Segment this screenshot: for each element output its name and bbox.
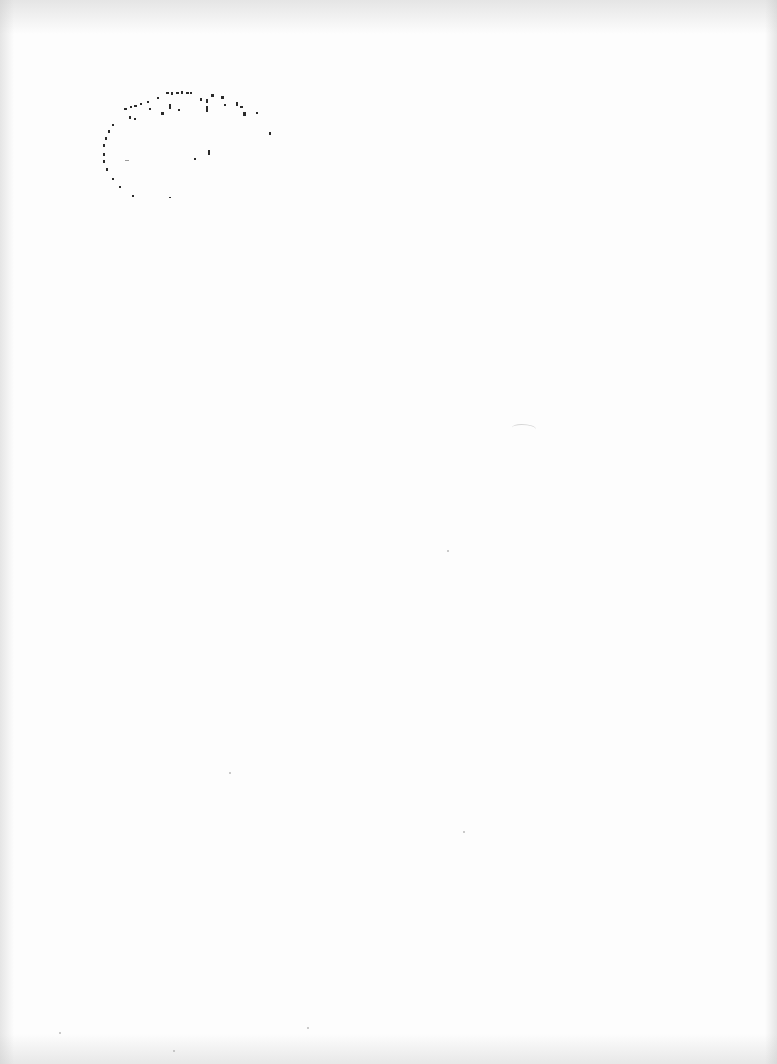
dust-speck	[59, 1032, 61, 1034]
scan-edge-bottom	[0, 1034, 777, 1064]
dust-speck	[447, 550, 449, 552]
dust-speck	[229, 772, 231, 774]
scan-edge-right	[765, 0, 777, 1064]
dust-speck	[307, 1027, 309, 1029]
scan-edge-top	[0, 0, 777, 34]
document-page	[0, 0, 777, 1064]
scan-edge-left	[0, 0, 14, 1064]
faded-stamp-mark	[86, 80, 276, 198]
faint-smudge	[512, 424, 536, 433]
dust-speck	[463, 831, 465, 833]
dust-speck	[173, 1050, 175, 1052]
